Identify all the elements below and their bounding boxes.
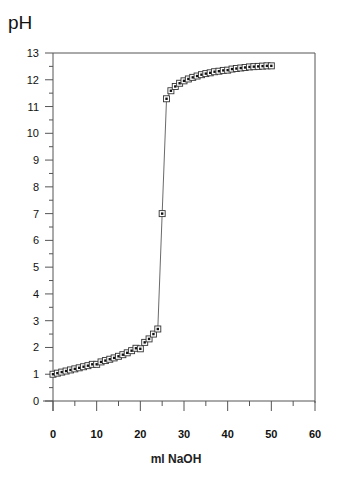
data-point-dot: [218, 70, 220, 72]
y-tick-label: 5: [33, 261, 39, 273]
y-tick-label: 3: [33, 315, 39, 327]
data-point-dot: [187, 78, 189, 80]
data-series: [50, 63, 274, 377]
data-point-dot: [213, 71, 215, 73]
data-point-dot: [231, 68, 233, 70]
y-tick-label: 10: [27, 127, 39, 139]
x-tick-label: 40: [222, 428, 234, 440]
series-line: [53, 66, 271, 374]
data-point-dot: [157, 328, 159, 330]
data-point-dot: [109, 358, 111, 360]
data-point-dot: [135, 347, 137, 349]
x-tick-label: 30: [178, 428, 190, 440]
y-tick-label: 7: [33, 208, 39, 220]
data-point-dot: [126, 352, 128, 354]
data-point-dot: [104, 359, 106, 361]
data-point-dot: [209, 72, 211, 74]
data-point-dot: [82, 366, 84, 368]
y-tick-label: 6: [33, 234, 39, 246]
data-point-dot: [178, 82, 180, 84]
y-tick-label: 11: [28, 101, 39, 113]
data-point-dot: [235, 67, 237, 69]
data-point-dot: [91, 363, 93, 365]
data-point-dot: [69, 369, 71, 371]
y-tick-label: 8: [33, 181, 39, 193]
data-point-dot: [87, 364, 89, 366]
data-point-dot: [205, 72, 207, 74]
x-tick-label: 60: [309, 428, 321, 440]
data-point-dot: [100, 361, 102, 363]
data-point-dot: [144, 341, 146, 343]
data-point-dot: [65, 370, 67, 372]
y-tick-label: 2: [33, 341, 39, 353]
data-point-dot: [270, 65, 272, 67]
data-point-dot: [78, 367, 80, 369]
data-point-dot: [266, 65, 268, 67]
titration-chart: 012345678910111213 0102030405060: [0, 0, 338, 481]
data-point-dot: [222, 69, 224, 71]
data-point-dot: [152, 333, 154, 335]
data-point-dot: [253, 65, 255, 67]
x-tick-label: 50: [265, 428, 277, 440]
data-point-dot: [248, 66, 250, 68]
y-axis: 012345678910111213: [27, 47, 53, 407]
data-point-dot: [122, 353, 124, 355]
data-point-dot: [196, 75, 198, 77]
y-tick-label: 12: [27, 74, 39, 86]
data-point-dot: [56, 372, 58, 374]
x-axis: 0102030405060: [50, 401, 321, 440]
data-point-dot: [165, 98, 167, 100]
data-point-dot: [192, 76, 194, 78]
data-point-dot: [226, 69, 228, 71]
y-tick-label: 0: [33, 395, 39, 407]
data-point-dot: [161, 212, 163, 214]
data-point-dot: [244, 66, 246, 68]
x-axis-title: ml NaOH: [0, 452, 338, 466]
data-point-dot: [74, 368, 76, 370]
plot-frame: [43, 53, 315, 411]
x-tick-label: 0: [50, 428, 56, 440]
y-tick-label: 4: [33, 288, 39, 300]
data-point-dot: [200, 73, 202, 75]
data-point-dot: [52, 373, 54, 375]
data-point-dot: [113, 357, 115, 359]
data-point-dot: [95, 363, 97, 365]
x-tick-label: 10: [91, 428, 103, 440]
data-point-dot: [174, 85, 176, 87]
data-point-dot: [130, 349, 132, 351]
y-tick-label: 13: [27, 47, 39, 59]
data-point-dot: [257, 65, 259, 67]
data-point-dot: [261, 65, 263, 67]
x-tick-label: 20: [134, 428, 146, 440]
data-point-dot: [170, 90, 172, 92]
data-point-dot: [183, 80, 185, 82]
data-point-dot: [148, 338, 150, 340]
data-point-dot: [61, 371, 63, 373]
y-tick-label: 1: [33, 368, 39, 380]
data-point-dot: [139, 348, 141, 350]
y-tick-label: 9: [33, 154, 39, 166]
data-point-dot: [117, 355, 119, 357]
data-point-dot: [240, 67, 242, 69]
